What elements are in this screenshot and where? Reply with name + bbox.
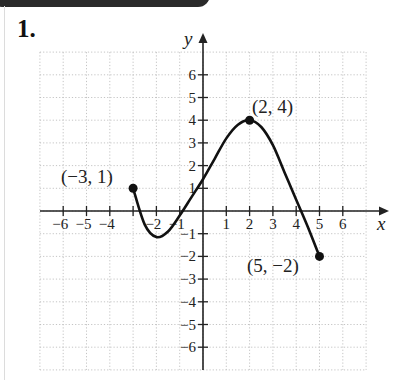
y-tick-label: −1	[180, 226, 196, 242]
x-tick-label: 5	[316, 216, 324, 232]
y-axis-label: y	[182, 28, 193, 49]
y-tick-label: −5	[180, 317, 196, 333]
key-point-dot	[315, 252, 324, 261]
point-label-end: (5, −2)	[247, 255, 299, 277]
x-axis-label: x	[376, 213, 386, 234]
point-label-max: (2, 4)	[252, 96, 293, 118]
x-tick-label: 4	[292, 216, 300, 232]
y-tick-label: −6	[180, 339, 196, 355]
y-tick-label: −2	[180, 248, 196, 264]
x-tick-label: 6	[339, 216, 347, 232]
axes: x y	[40, 28, 389, 370]
y-tick-label: 4	[189, 112, 197, 128]
y-tick-label: −3	[180, 271, 196, 287]
x-tick-label: 3	[269, 216, 277, 232]
x-tick-label: −6	[52, 216, 68, 232]
key-point-dot	[129, 184, 138, 193]
point-label-start: (−3, 1)	[61, 166, 113, 188]
y-tick-label: 6	[189, 67, 197, 83]
y-axis-arrow-icon	[199, 33, 208, 43]
y-tick-label: 2	[189, 158, 197, 174]
y-tick-label: −4	[180, 294, 196, 310]
x-tick-label: 2	[246, 216, 254, 232]
y-tick-label: 3	[189, 135, 197, 151]
x-tick-label: 1	[223, 216, 231, 232]
key-point-dot	[245, 116, 254, 125]
function-graph: x y −6−5−4−2−1123456654321−1−2−3−4−5−6 (…	[0, 0, 398, 380]
x-tick-label: −4	[99, 216, 115, 232]
x-tick-label: −5	[76, 216, 92, 232]
y-tick-label: 5	[189, 90, 197, 106]
